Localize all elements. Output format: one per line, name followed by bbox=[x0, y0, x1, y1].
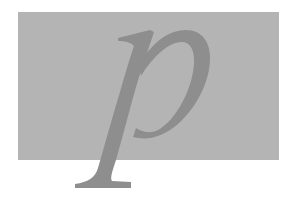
letter-p-stem bbox=[75, 30, 154, 188]
italic-letter-p-glyph bbox=[0, 0, 298, 202]
